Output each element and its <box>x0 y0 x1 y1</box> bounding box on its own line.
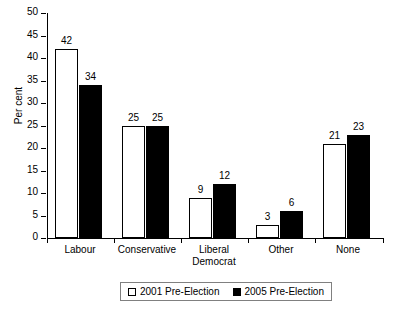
x-category-line: None <box>303 244 393 256</box>
y-tick-label: 35 <box>0 74 38 85</box>
bar-2005: 25 <box>146 126 169 239</box>
bar-value-label: 12 <box>219 170 230 181</box>
bar-2005: 6 <box>280 211 303 238</box>
x-axis-line <box>47 238 384 239</box>
bar-value-label: 25 <box>128 112 139 123</box>
bar-group: 9 12 <box>181 13 248 238</box>
bar-2005: 34 <box>79 85 102 238</box>
bar-2001: 9 <box>189 198 212 239</box>
y-tick-label: 5 <box>0 209 38 220</box>
bar-value-label: 34 <box>85 71 96 82</box>
bar-2005: 23 <box>347 135 370 239</box>
bar-group: 21 23 <box>315 13 382 238</box>
bar-2001: 42 <box>55 49 78 238</box>
y-tick-label: 25 <box>0 119 38 130</box>
legend-item-2001: 2001 Pre-Election <box>128 286 220 297</box>
x-category-line: Democrat <box>169 256 259 268</box>
bar-2001: 3 <box>256 225 279 239</box>
bar-group: 3 6 <box>248 13 315 238</box>
bar-value-label: 23 <box>353 121 364 132</box>
filled-square-icon <box>233 288 241 296</box>
open-square-icon <box>128 288 136 296</box>
bar-value-label: 21 <box>329 130 340 141</box>
y-tick-label: 30 <box>0 96 38 107</box>
y-tick-label: 20 <box>0 141 38 152</box>
bar-value-label: 25 <box>152 112 163 123</box>
bar-2001: 21 <box>323 144 346 239</box>
bar-chart: Per cent 0 5 10 15 20 25 <box>0 0 402 312</box>
bar-group: 25 25 <box>114 13 181 238</box>
x-category-label-none: None <box>303 244 393 256</box>
y-tick-label: 50 <box>0 6 38 17</box>
bar-2001: 25 <box>122 126 145 239</box>
bar-group: 42 34 <box>47 13 114 238</box>
y-tick-label: 40 <box>0 51 38 62</box>
legend-item-2005: 2005 Pre-Election <box>233 286 325 297</box>
legend: 2001 Pre-Election 2005 Pre-Election <box>120 282 332 301</box>
legend-label: 2005 Pre-Election <box>245 286 325 297</box>
bar-value-label: 6 <box>289 197 295 208</box>
bar-value-label: 3 <box>265 211 271 222</box>
bar-2005: 12 <box>213 184 236 238</box>
y-tick-label: 10 <box>0 186 38 197</box>
y-tick-label: 45 <box>0 29 38 40</box>
bar-value-label: 9 <box>198 184 204 195</box>
legend-label: 2001 Pre-Election <box>140 286 220 297</box>
y-tick-label: 0 <box>0 231 38 242</box>
bar-value-label: 42 <box>61 35 72 46</box>
y-tick-label: 15 <box>0 164 38 175</box>
plot-area: 0 5 10 15 20 25 30 35 <box>47 13 384 238</box>
